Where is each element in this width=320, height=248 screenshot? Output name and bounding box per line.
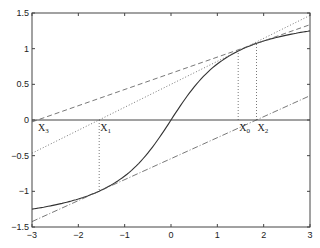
x-tick-label: 1 [215, 230, 220, 240]
point-label-x1: X1 [100, 122, 111, 135]
axis-ticks: −3−2−10123−1.5−1−0.500.511.5 [11, 8, 312, 240]
y-tick-label: −0.5 [11, 151, 29, 161]
tangent-at-x1-line [32, 96, 310, 222]
tangent-at-x2-line [32, 25, 310, 122]
point-label-x2: X2 [257, 122, 268, 135]
y-tick-label: 0 [24, 115, 29, 125]
y-tick-label: −1.5 [11, 222, 29, 232]
plot-lines [32, 15, 310, 221]
newton-method-chart: −3−2−10123−1.5−1−0.500.511.5 X3X1X0X2 [0, 0, 320, 248]
y-tick-label: −1 [19, 186, 29, 196]
y-tick-label: 0.5 [16, 79, 29, 89]
point-label-x3: X3 [38, 122, 49, 135]
x-tick-label: 3 [307, 230, 312, 240]
y-tick-label: 1.5 [16, 8, 29, 18]
y-tick-label: 1 [24, 44, 29, 54]
x-tick-label: −1 [120, 230, 130, 240]
x-tick-label: 2 [261, 230, 266, 240]
x-tick-label: −2 [73, 230, 83, 240]
point-label-x0: X0 [239, 122, 250, 135]
tangent-at-x0-line [32, 15, 310, 153]
x-tick-label: 0 [168, 230, 173, 240]
